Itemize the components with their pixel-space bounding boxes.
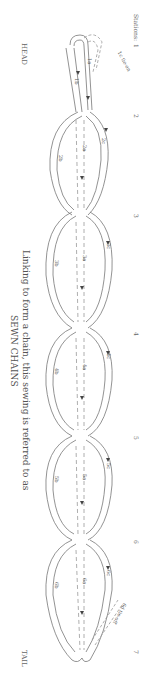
- strand-3c: 3c: [106, 243, 112, 249]
- strand-5a: 5a: [82, 474, 88, 480]
- strand-4c: 4c: [106, 353, 112, 359]
- strand-1b: 1b: [74, 78, 80, 84]
- tail-label: TAIL: [20, 650, 28, 667]
- first-link-inner: [74, 40, 88, 110]
- strand-5b: 5b: [54, 476, 60, 482]
- link-6: [46, 540, 122, 662]
- strand-2c: 2c: [101, 138, 107, 144]
- strand-6c: 6c: [106, 570, 112, 576]
- link-4: [46, 328, 112, 436]
- station-7: 7: [133, 650, 140, 654]
- link-3: [46, 212, 112, 328]
- strand-2a: 2a: [82, 145, 88, 151]
- first-link-outer: [70, 35, 92, 110]
- strand-3a: 3a: [82, 255, 88, 261]
- strand-4a: 4a: [82, 364, 88, 370]
- caption-line-2: SEWN CHAINS: [9, 315, 19, 387]
- station-1: 1: [133, 44, 140, 48]
- head-label: HEAD: [20, 43, 28, 65]
- station-6: 6: [133, 540, 140, 544]
- strand-3b: 3b: [54, 260, 60, 266]
- station-5: 5: [133, 436, 140, 440]
- station-2: 2: [133, 114, 140, 118]
- strand-5c: 5c: [106, 463, 112, 469]
- station-4: 4: [133, 332, 140, 336]
- strand-1a: 1a: [87, 58, 93, 64]
- strand-6a: 6a: [82, 578, 88, 584]
- link-2: [50, 112, 108, 215]
- station-3: 3: [133, 214, 140, 218]
- strand-2b: 2b: [58, 155, 64, 161]
- strand-4b: 4b: [54, 368, 60, 374]
- caption-line-1: Linking to form a chain, this sewing is …: [21, 250, 31, 490]
- stations-heading: Stations:: [133, 14, 140, 41]
- strand-6b: 6b: [54, 582, 60, 588]
- link-5: [46, 436, 112, 540]
